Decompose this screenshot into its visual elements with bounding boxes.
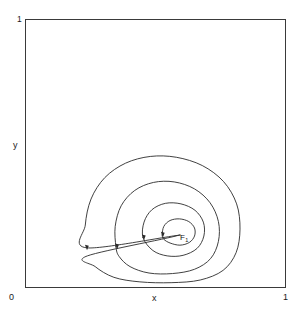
orbit-curve (162, 219, 195, 245)
plot-frame (26, 20, 286, 288)
fixed-point-subscript: 1 (185, 237, 188, 243)
orbit-curve-group (79, 156, 240, 283)
orbit-curve (115, 181, 220, 274)
x-axis-title: x (152, 294, 157, 303)
y-axis-title: y (13, 141, 18, 150)
phase-plane-figure: 1 0 1 x y F1 (0, 0, 305, 316)
fixed-point-label: F1 (180, 233, 188, 243)
plot-canvas (0, 0, 305, 316)
flow-direction-arrow (161, 232, 165, 238)
x-axis-max-tick-label: 1 (283, 293, 288, 302)
origin-tick-label: 0 (9, 293, 14, 302)
orbit-curve (79, 156, 240, 283)
y-axis-max-tick-label: 1 (17, 15, 22, 24)
